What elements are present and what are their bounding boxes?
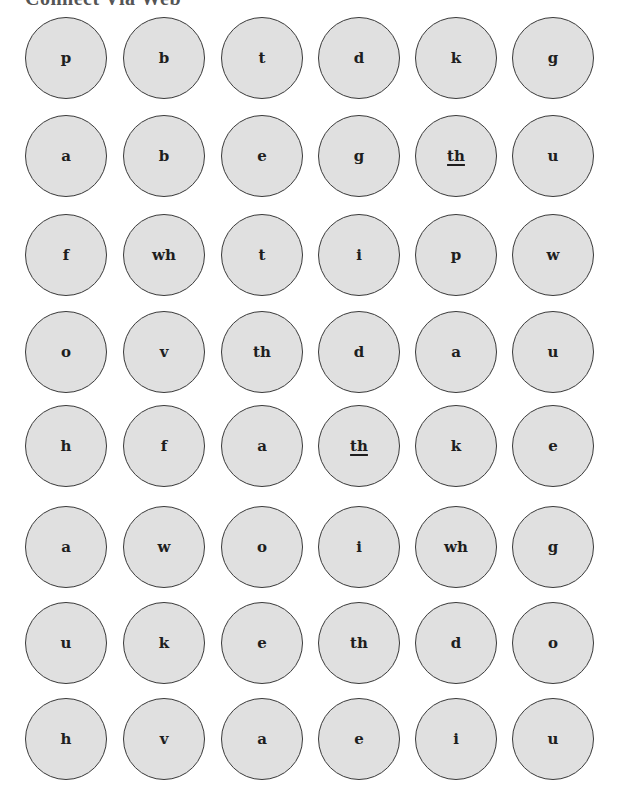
letter-circle-label: d [354, 345, 365, 360]
letter-circle: u [512, 115, 594, 197]
letter-circle-label: o [61, 345, 71, 360]
letter-circle-label: p [61, 51, 72, 66]
letter-circle: i [318, 506, 400, 588]
letter-circle: k [415, 17, 497, 99]
letter-circle: e [318, 698, 400, 780]
letter-circle: f [123, 405, 205, 487]
letter-circle-label: e [257, 149, 267, 164]
letter-circle: i [415, 698, 497, 780]
letter-circle-label: th [253, 345, 271, 360]
letter-circle: e [221, 602, 303, 684]
letter-circle-label: p [451, 248, 462, 263]
letter-circle: k [123, 602, 205, 684]
letter-circle: b [123, 115, 205, 197]
letter-circle: d [415, 602, 497, 684]
letter-circle-label: a [257, 439, 267, 454]
letter-circle: o [221, 506, 303, 588]
letter-circle: u [512, 311, 594, 393]
letter-circle-label: u [548, 149, 559, 164]
letter-circle-label: t [259, 51, 266, 66]
letter-circle: v [123, 311, 205, 393]
letter-circle: d [318, 311, 400, 393]
letter-circle-label: i [356, 540, 362, 555]
letter-circle-label: e [354, 732, 364, 747]
letter-circle: f [25, 214, 107, 296]
letter-circle-label: u [61, 636, 72, 651]
letter-circle-label: a [61, 540, 71, 555]
letter-circle: a [25, 115, 107, 197]
letter-circle: th [415, 115, 497, 197]
letter-circle-label: u [548, 345, 559, 360]
letter-circle-label: th [350, 439, 368, 454]
letter-circle: e [512, 405, 594, 487]
letter-circle: w [512, 214, 594, 296]
letter-circle: th [318, 602, 400, 684]
letter-circle: w [123, 506, 205, 588]
letter-circle: d [318, 17, 400, 99]
letter-circle: e [221, 115, 303, 197]
letter-circle-label: o [548, 636, 558, 651]
letter-circle: a [25, 506, 107, 588]
letter-circle: u [512, 698, 594, 780]
letter-circle-label: a [257, 732, 267, 747]
letter-circle-label: o [257, 540, 267, 555]
letter-circle: g [318, 115, 400, 197]
letter-circle-label: b [159, 51, 170, 66]
letter-circle-label: k [451, 439, 461, 454]
letter-circle-label: th [350, 636, 368, 651]
letter-circle-label: b [159, 149, 170, 164]
letter-circle: g [512, 17, 594, 99]
letter-circle: i [318, 214, 400, 296]
letter-circle-label: w [158, 540, 171, 555]
letter-circle: t [221, 17, 303, 99]
letter-circle-label: f [63, 248, 69, 263]
letter-circle-label: i [356, 248, 362, 263]
letter-circle: o [25, 311, 107, 393]
letter-circle: wh [123, 214, 205, 296]
letter-circle-label: e [548, 439, 558, 454]
letter-circle-label: wh [152, 248, 176, 263]
letter-circle-label: k [451, 51, 461, 66]
letter-circle: th [318, 405, 400, 487]
letter-circle: p [415, 214, 497, 296]
letter-circle: a [221, 698, 303, 780]
letter-circle: p [25, 17, 107, 99]
letter-circle-label: i [453, 732, 459, 747]
letter-circle: h [25, 698, 107, 780]
letter-circle-label: h [61, 439, 72, 454]
letter-circle-label: a [61, 149, 71, 164]
letter-circle: v [123, 698, 205, 780]
letter-circle-label: e [257, 636, 267, 651]
letter-circle-label: u [548, 732, 559, 747]
letter-circle-label: d [451, 636, 462, 651]
letter-circle: t [221, 214, 303, 296]
letter-circle-label: k [159, 636, 169, 651]
letter-circle: b [123, 17, 205, 99]
letter-circle-label: th [447, 149, 465, 164]
letter-circle-label: g [548, 540, 559, 555]
letter-circle-label: d [354, 51, 365, 66]
letter-circle-label: h [61, 732, 72, 747]
letter-circle: k [415, 405, 497, 487]
letter-circle: o [512, 602, 594, 684]
letter-circle: u [25, 602, 107, 684]
letter-circle: g [512, 506, 594, 588]
letter-circle-label: v [160, 732, 169, 747]
letter-circle-label: g [548, 51, 559, 66]
letter-circle-label: f [161, 439, 167, 454]
letter-circle-label: t [259, 248, 266, 263]
letter-circle: a [415, 311, 497, 393]
letter-circle: h [25, 405, 107, 487]
letter-circle-label: a [451, 345, 461, 360]
letter-circle-label: wh [444, 540, 468, 555]
letter-circle: a [221, 405, 303, 487]
letter-circle-label: g [354, 149, 365, 164]
letter-circle: wh [415, 506, 497, 588]
letter-circle-grid: pbtdkgabegthufwhtipwovthdauhfathkeawoiwh… [0, 0, 618, 797]
letter-circle: th [221, 311, 303, 393]
letter-circle-label: v [160, 345, 169, 360]
letter-circle-label: w [547, 248, 560, 263]
